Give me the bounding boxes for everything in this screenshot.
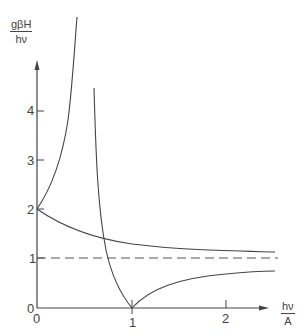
x-tick-0: 0 — [33, 312, 40, 325]
x-axis-label: hν A — [281, 300, 295, 327]
y-label-denominator: hν — [10, 32, 32, 45]
y-tick-3: 3 — [27, 154, 34, 167]
x-label-numerator: hν — [281, 300, 295, 314]
y-label-numerator: gβH — [10, 18, 32, 32]
y-axis-arrow-icon — [35, 60, 40, 70]
y-tick-1: 1 — [29, 252, 36, 265]
x-tick-2: 2 — [222, 312, 229, 325]
plot-canvas — [0, 0, 307, 336]
x-axis-arrow-icon — [259, 306, 269, 311]
curve-lower-left — [94, 88, 132, 308]
x-label-denominator: A — [281, 314, 295, 327]
curve-upper-falling — [37, 209, 275, 252]
y-tick-4: 4 — [27, 104, 34, 117]
curve-lower-right — [132, 271, 275, 308]
x-tick-1: 1 — [129, 316, 136, 329]
y-tick-2: 2 — [27, 203, 34, 216]
curve-upper-rising — [37, 17, 77, 209]
y-axis-label: gβH hν — [10, 18, 32, 45]
